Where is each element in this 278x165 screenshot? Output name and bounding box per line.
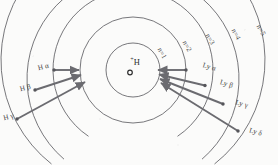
- balmer-endpoint-dots: [15, 68, 55, 120]
- endpoint-ly-alpha: [184, 68, 187, 71]
- transition-ly-delta: [161, 83, 238, 131]
- figure-canvas: [0, 0, 278, 165]
- orbit-arc-n4: [27, 0, 239, 159]
- endpoint-ly-beta: [203, 84, 206, 87]
- endpoint-h-gamma: [15, 117, 18, 120]
- nucleus-symbol: H: [134, 57, 140, 67]
- orbit-arc-n1: [106, 43, 160, 97]
- nucleus-label: +H: [130, 56, 140, 66]
- endpoint-ly-delta: [236, 129, 239, 132]
- endpoint-ly-gamma: [221, 102, 224, 105]
- endpoint-h-beta: [33, 88, 36, 91]
- bohr-model-figure: +H n=1 n=2 n=3 n=4 n=5 Ly α Ly β Ly γ Ly…: [0, 0, 278, 165]
- nucleus-dot: [128, 70, 133, 75]
- orbit-arc-n3: [53, 0, 213, 136]
- endpoint-h-alpha: [52, 68, 55, 71]
- transition-ly-beta: [159, 75, 205, 86]
